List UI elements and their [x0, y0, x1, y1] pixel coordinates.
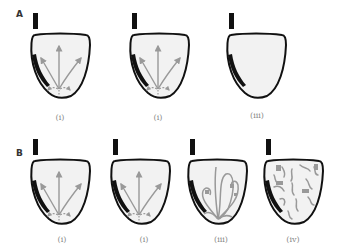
label-a-1: (i)	[56, 113, 65, 122]
label-b-1: (i)	[58, 235, 67, 244]
label-b-2: (i)	[140, 235, 149, 244]
panel-a-item-3	[227, 13, 286, 98]
panel-a-item-2	[130, 13, 189, 98]
panel-b-item-2	[111, 139, 170, 224]
label-b-3: (iii)	[214, 235, 228, 244]
panel-a-item-1	[31, 13, 90, 98]
label-a-3: (iii)	[250, 111, 264, 120]
label-b-4: (iv)	[286, 235, 299, 244]
panel-b-item-4	[264, 139, 323, 224]
label-a-2: (i)	[154, 113, 163, 122]
ventricle-diagram	[0, 0, 338, 251]
panel-b-item-3	[188, 139, 247, 224]
panel-b-item-1	[31, 139, 90, 224]
